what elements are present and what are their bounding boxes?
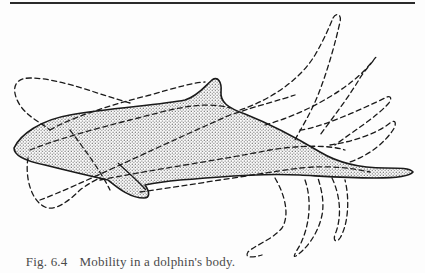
figure-caption: Fig. 6.4Mobility in a dolphin's body. xyxy=(12,238,235,273)
book-page: Fig. 6.4Mobility in a dolphin's body. xyxy=(0,0,425,273)
dolphin-mobility-figure xyxy=(0,0,425,273)
dashed-tail-up-3 xyxy=(300,97,391,145)
dolphin-body-outline xyxy=(14,79,413,198)
dashed-tail-down-2 xyxy=(294,178,323,256)
dashed-tail-down-3 xyxy=(332,178,348,241)
dolphin-body xyxy=(14,79,413,198)
dashed-tail-down-1 xyxy=(247,178,286,257)
dashed-tail-up-2 xyxy=(265,57,376,135)
figure-caption-text: Mobility in a dolphin's body. xyxy=(80,254,236,269)
figure-label: Fig. 6.4 xyxy=(26,254,68,269)
